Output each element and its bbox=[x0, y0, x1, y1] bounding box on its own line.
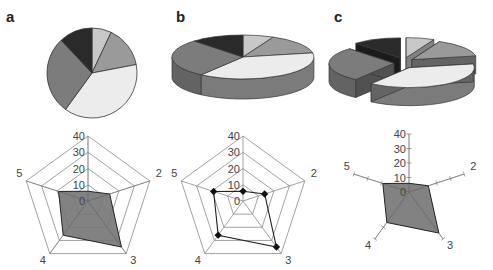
radar-tick-label: 20 bbox=[228, 163, 240, 175]
radar-axis-label: 2 bbox=[311, 167, 317, 179]
radar-tick-label: 40 bbox=[228, 130, 240, 142]
pie-chart-b-3d bbox=[172, 35, 314, 99]
panel-label-a: a bbox=[6, 8, 15, 25]
radar-marker bbox=[210, 188, 217, 195]
radar-chart-a: 0102030402345 bbox=[16, 130, 162, 266]
radar-axis-label: 3 bbox=[130, 254, 136, 266]
radar-chart-b: 0102030402345 bbox=[171, 130, 317, 266]
radar-series-line bbox=[214, 191, 277, 247]
pie-chart-a bbox=[47, 28, 137, 118]
radar-marker bbox=[273, 243, 280, 250]
radar-axis-label: 4 bbox=[365, 239, 371, 251]
radar-tick-label: 0 bbox=[79, 195, 85, 207]
radar-tick-label: 10 bbox=[73, 179, 85, 191]
radar-tick-label: 30 bbox=[228, 146, 240, 158]
radar-tick-label: 20 bbox=[394, 157, 406, 169]
radar-axis-label: 4 bbox=[195, 254, 201, 266]
radar-tick-label: 30 bbox=[394, 143, 406, 155]
radar-chart-c: 0102030402345 bbox=[344, 128, 476, 251]
radar-tick-label: 10 bbox=[228, 179, 240, 191]
radar-axis-label: 4 bbox=[40, 254, 46, 266]
radar-series-area bbox=[383, 183, 439, 233]
chart-canvas: a b c 0102030402345 0102030402345 010203… bbox=[0, 0, 493, 270]
radar-marker bbox=[214, 232, 221, 239]
radar-marker bbox=[239, 188, 246, 195]
radar-axis-overlay bbox=[409, 174, 464, 192]
radar-tick-label: 10 bbox=[394, 172, 406, 184]
radar-tick-label: 40 bbox=[394, 128, 406, 140]
radar-tick-label: 0 bbox=[400, 186, 406, 198]
radar-axis-label: 5 bbox=[171, 167, 177, 179]
panel-label-b: b bbox=[176, 8, 185, 25]
radar-tick-label: 0 bbox=[234, 195, 240, 207]
pie-chart-c-exploded bbox=[329, 38, 476, 106]
radar-axis-label: 5 bbox=[16, 167, 22, 179]
radar-axis-label: 2 bbox=[470, 160, 476, 172]
radar-axis-label: 3 bbox=[447, 239, 453, 251]
radar-tick-label: 20 bbox=[73, 163, 85, 175]
radar-axis-label: 2 bbox=[156, 167, 162, 179]
radar-axis bbox=[243, 181, 305, 201]
radar-axis-label: 3 bbox=[285, 254, 291, 266]
radar-tick-label: 30 bbox=[73, 146, 85, 158]
radar-tick-label: 40 bbox=[73, 130, 85, 142]
panel-label-c: c bbox=[334, 8, 342, 25]
radar-series-area bbox=[59, 191, 122, 247]
radar-axis-label: 5 bbox=[344, 160, 350, 172]
radar-axis-overlay bbox=[88, 181, 150, 201]
radar-marker bbox=[261, 190, 268, 197]
